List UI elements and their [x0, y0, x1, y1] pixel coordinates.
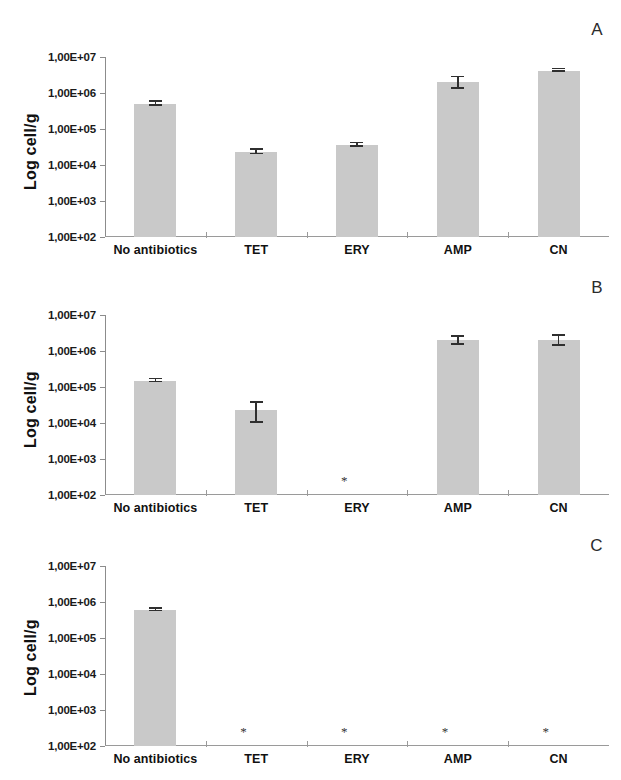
bar-category: TET [206, 315, 307, 495]
significance-marker: * [240, 725, 247, 738]
error-bar-cap [149, 104, 162, 106]
bar-category: No antibiotics [105, 566, 206, 746]
error-bar-cap [451, 87, 464, 89]
y-axis-title-a: Log cell/g [22, 113, 40, 190]
error-bar-cap [451, 335, 464, 337]
bar-category: *ERY [307, 315, 408, 495]
x-axis-label: TET [206, 501, 307, 515]
y-tick-label: 1,00E+05 [48, 381, 96, 393]
error-bar-cap [552, 334, 565, 336]
y-tick-label: 1,00E+03 [48, 704, 96, 716]
x-axis-label: AMP [407, 501, 508, 515]
bar [437, 340, 479, 495]
plot-area-a: 1,00E+071,00E+061,00E+051,00E+041,00E+03… [105, 57, 609, 237]
x-tick [407, 232, 408, 238]
y-tick-label: 1,00E+06 [48, 596, 96, 608]
y-tick [100, 746, 105, 747]
x-tick [307, 490, 308, 496]
y-axis-title-c: Log cell/g [22, 619, 40, 696]
error-bar-cap [149, 607, 162, 609]
x-tick [206, 741, 207, 747]
bar [437, 82, 479, 237]
x-axis-label: CN [508, 243, 609, 257]
error-bar-cap [350, 145, 363, 147]
x-tick [206, 232, 207, 238]
panel-letter-c: C [590, 536, 603, 556]
x-axis-label: ERY [307, 243, 408, 257]
error-bar-cap [149, 381, 162, 383]
panel-letter-a: A [591, 20, 603, 40]
x-tick [307, 741, 308, 747]
y-tick-label: 1,00E+07 [48, 560, 96, 572]
x-axis-label: No antibiotics [105, 243, 206, 257]
error-bar-cap [149, 610, 162, 612]
bar [134, 610, 176, 746]
bar-category: No antibiotics [105, 315, 206, 495]
figure-caption [16, 764, 611, 778]
y-tick-label: 1,00E+02 [48, 489, 96, 501]
x-axis-label: ERY [307, 501, 408, 515]
x-axis-label: No antibiotics [105, 501, 206, 515]
y-tick-label: 1,00E+02 [48, 740, 96, 752]
y-tick-label: 1,00E+02 [48, 231, 96, 243]
bar-category: *CN [508, 566, 609, 746]
y-tick-label: 1,00E+07 [48, 51, 96, 63]
bar [538, 71, 580, 237]
bar-category: CN [508, 57, 609, 237]
plot-area-c: 1,00E+071,00E+061,00E+051,00E+041,00E+03… [105, 566, 609, 746]
error-bar-cap [149, 100, 162, 102]
bar [134, 381, 176, 495]
plot-area-b: 1,00E+071,00E+061,00E+051,00E+041,00E+03… [105, 315, 609, 495]
bar-category: AMP [407, 315, 508, 495]
chart-panel-b: B Log cell/g 1,00E+071,00E+061,00E+051,0… [0, 278, 621, 528]
panel-letter-b: B [591, 278, 603, 298]
significance-marker: * [442, 725, 449, 738]
chart-panel-a: A Log cell/g 1,00E+071,00E+061,00E+051,0… [0, 20, 621, 270]
bar-category: No antibiotics [105, 57, 206, 237]
bar-category: TET [206, 57, 307, 237]
y-tick-label: 1,00E+06 [48, 345, 96, 357]
significance-marker: * [341, 474, 348, 487]
bar [235, 152, 277, 237]
y-axis-title-b: Log cell/g [22, 371, 40, 448]
x-tick [407, 741, 408, 747]
bar [134, 104, 176, 237]
x-tick [508, 490, 509, 496]
y-tick-label: 1,00E+04 [48, 668, 96, 680]
x-tick [407, 490, 408, 496]
error-bar-cap [250, 421, 263, 423]
y-tick-label: 1,00E+07 [48, 309, 96, 321]
chart-panel-c: C Log cell/g 1,00E+071,00E+061,00E+051,0… [0, 536, 621, 766]
x-axis-label: AMP [407, 243, 508, 257]
error-bar-cap [250, 153, 263, 155]
x-tick [206, 490, 207, 496]
bar [336, 145, 378, 237]
error-bar-cap [552, 70, 565, 72]
significance-marker: * [543, 725, 550, 738]
y-tick-label: 1,00E+03 [48, 453, 96, 465]
error-bar-cap [451, 343, 464, 345]
bar-category: CN [508, 315, 609, 495]
y-tick [100, 495, 105, 496]
x-tick [508, 232, 509, 238]
error-bar-cap [350, 142, 363, 144]
y-tick-label: 1,00E+04 [48, 417, 96, 429]
y-tick [100, 237, 105, 238]
error-bar-cap [250, 148, 263, 150]
y-tick-label: 1,00E+05 [48, 123, 96, 135]
bar-category: *ERY [307, 566, 408, 746]
y-tick-label: 1,00E+05 [48, 632, 96, 644]
bar-category: *TET [206, 566, 307, 746]
bar-group-c: No antibiotics*TET*ERY*AMP*CN [105, 566, 609, 746]
x-tick [307, 232, 308, 238]
error-bar-cap [451, 76, 464, 78]
error-bar-cap [250, 401, 263, 403]
bar-category: ERY [307, 57, 408, 237]
x-tick [508, 741, 509, 747]
error-bar [255, 403, 257, 423]
x-axis-label: CN [508, 501, 609, 515]
bar-category: *AMP [407, 566, 508, 746]
bar [538, 340, 580, 495]
bar-group-a: No antibioticsTETERYAMPCN [105, 57, 609, 237]
error-bar-cap [149, 378, 162, 380]
